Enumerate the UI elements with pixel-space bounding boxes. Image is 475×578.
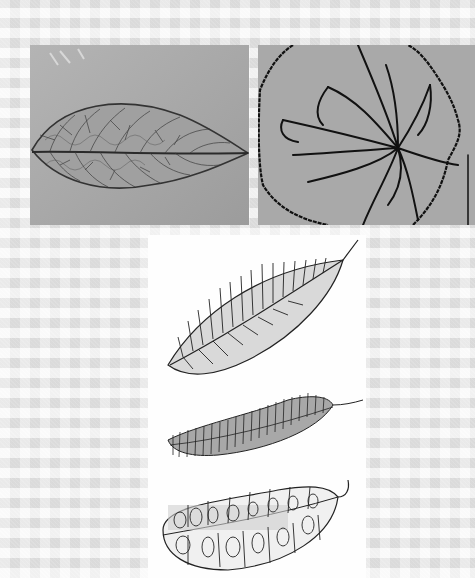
leaf-drawing-2 <box>168 393 363 457</box>
leaf-drawings-panel <box>148 235 366 578</box>
leaf-drawings <box>148 235 366 578</box>
vein-tracing-photo <box>258 45 475 225</box>
leaf-drawing-3 <box>163 480 349 570</box>
leaf-skeleton-image <box>30 45 249 225</box>
leaf-drawing-1 <box>168 240 358 374</box>
leaf-tracing-image <box>258 45 475 225</box>
skeleton-leaf-photo <box>30 45 249 225</box>
